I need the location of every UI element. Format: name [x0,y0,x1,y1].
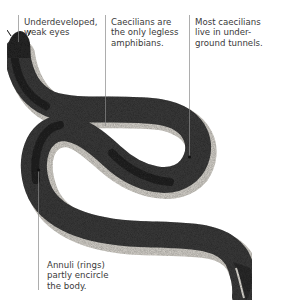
annotation-line: Caecilians are [111,17,179,27]
annotation-line: the body. [47,281,108,291]
annotation-legless: Caecilians are the only legless amphibia… [111,17,179,48]
leader-dot-tunnels [188,155,191,158]
annotation-tunnels: Most caecilians live in under- ground tu… [195,17,263,48]
tentacle-left [7,30,11,36]
caecilian-body [7,30,252,300]
annotation-eyes: Underdeveloped, weak eyes [24,17,98,38]
annotation-line: weak eyes [24,27,98,37]
annotation-line: Annuli (rings) [47,260,108,270]
annotation-line: Most caecilians [195,17,263,27]
annotation-line: partly encircle [47,270,108,280]
annotation-annuli: Annuli (rings) partly encircle the body. [47,260,108,291]
annotation-line: ground tunnels. [195,38,263,48]
annotation-line: the only legless [111,27,179,37]
leader-dot-annuli [37,168,40,171]
annotation-line: Underdeveloped, [24,17,98,27]
annotation-line: amphibians. [111,38,179,48]
annotation-line: live in under- [195,27,263,37]
